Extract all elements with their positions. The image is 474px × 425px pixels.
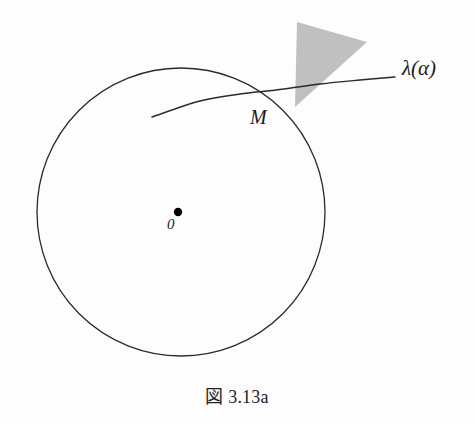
tangent-curve-lambda (152, 77, 395, 117)
curve-label-lambda: λ(α) (402, 58, 436, 79)
center-point-dot (174, 208, 182, 216)
figure-caption: 図 3.13a (0, 382, 474, 408)
shaded-cone-region (295, 22, 367, 107)
point-label-m: M (250, 107, 267, 127)
figure-container: λ(α) M 0 図 3.13a (0, 0, 474, 425)
point-label-origin: 0 (167, 217, 175, 232)
